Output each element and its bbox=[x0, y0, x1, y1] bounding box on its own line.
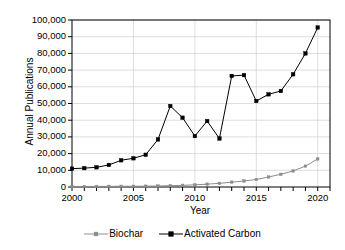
legend-marker-icon bbox=[84, 229, 108, 239]
legend-entry-activated-carbon: Activated Carbon bbox=[159, 228, 261, 239]
data-point-marker bbox=[280, 173, 283, 176]
data-point-marker bbox=[168, 104, 172, 108]
data-point-marker bbox=[304, 165, 307, 168]
data-point-marker bbox=[218, 182, 221, 185]
data-point-marker bbox=[206, 183, 209, 186]
y-tick-label: 100,000 bbox=[12, 14, 66, 25]
y-tick-label: 50,000 bbox=[12, 97, 66, 108]
data-point-marker bbox=[242, 73, 246, 77]
y-tick-label: 60,000 bbox=[12, 80, 66, 91]
data-point-marker bbox=[304, 52, 308, 56]
data-point-marker bbox=[132, 185, 135, 188]
x-tick-label: 2015 bbox=[236, 192, 276, 203]
y-tick-label: 80,000 bbox=[12, 47, 66, 58]
data-point-marker bbox=[181, 184, 184, 187]
data-point-marker bbox=[279, 89, 283, 93]
data-point-marker bbox=[243, 180, 246, 183]
y-tick-label: 20,000 bbox=[12, 147, 66, 158]
x-tick-label: 2020 bbox=[298, 192, 338, 203]
data-point-marker bbox=[169, 184, 172, 187]
chart-legend: BiocharActivated Carbon bbox=[0, 228, 345, 239]
x-tick-label: 2000 bbox=[52, 192, 92, 203]
data-point-marker bbox=[254, 99, 258, 103]
data-point-marker bbox=[156, 138, 160, 142]
legend-label: Biochar bbox=[109, 228, 143, 239]
x-tick-label: 2005 bbox=[113, 192, 153, 203]
data-point-marker bbox=[292, 170, 295, 173]
data-point-marker bbox=[82, 166, 86, 170]
data-point-marker bbox=[157, 185, 160, 188]
data-point-marker bbox=[267, 93, 271, 97]
x-tick-label: 2010 bbox=[175, 192, 215, 203]
data-point-marker bbox=[291, 72, 295, 76]
legend-marker-icon bbox=[159, 229, 183, 239]
data-point-marker bbox=[181, 116, 185, 120]
data-point-marker bbox=[144, 153, 148, 157]
y-tick-label: 30,000 bbox=[12, 130, 66, 141]
data-point-marker bbox=[71, 185, 74, 188]
data-point-marker bbox=[70, 167, 74, 171]
y-tick-label: 90,000 bbox=[12, 30, 66, 41]
legend-label: Activated Carbon bbox=[184, 228, 261, 239]
x-axis-title: Year bbox=[170, 205, 230, 216]
publications-line-chart: Annual Publications Year 010,00020,00030… bbox=[0, 0, 345, 250]
data-point-marker bbox=[218, 137, 222, 141]
data-point-marker bbox=[316, 26, 320, 30]
data-point-marker bbox=[255, 178, 258, 181]
data-point-marker bbox=[119, 158, 123, 162]
data-point-marker bbox=[83, 185, 86, 188]
data-point-marker bbox=[267, 176, 270, 179]
data-point-marker bbox=[95, 185, 98, 188]
data-point-marker bbox=[108, 185, 111, 188]
data-point-marker bbox=[230, 181, 233, 184]
y-tick-label: 70,000 bbox=[12, 64, 66, 75]
y-tick-label: 40,000 bbox=[12, 114, 66, 125]
data-point-marker bbox=[120, 185, 123, 188]
data-point-marker bbox=[194, 184, 197, 187]
data-point-marker bbox=[95, 165, 99, 169]
data-point-marker bbox=[205, 119, 209, 123]
data-point-marker bbox=[144, 185, 147, 188]
data-point-marker bbox=[107, 163, 111, 167]
data-point-marker bbox=[316, 158, 319, 161]
data-point-marker bbox=[193, 134, 197, 138]
y-tick-label: 0 bbox=[12, 181, 66, 192]
legend-entry-biochar: Biochar bbox=[84, 228, 143, 239]
y-tick-label: 10,000 bbox=[12, 164, 66, 175]
data-point-marker bbox=[230, 74, 234, 78]
data-point-marker bbox=[132, 156, 136, 160]
